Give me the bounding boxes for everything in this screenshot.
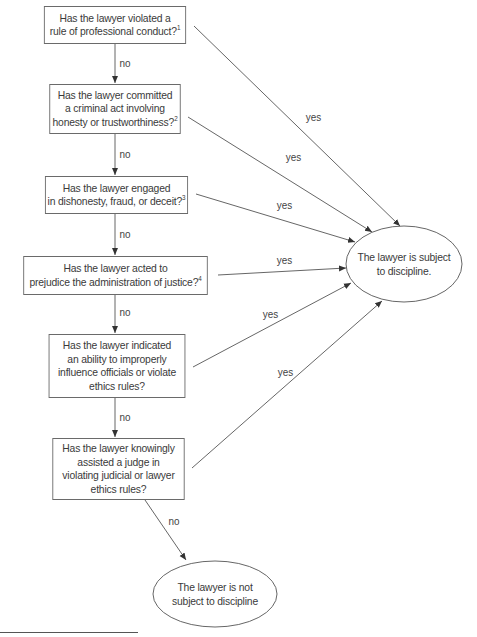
decision-q4: Has the lawyer acted to prejudice the ad…: [23, 256, 208, 295]
outcome-subject-line1: The lawyer is subject: [358, 250, 451, 264]
decision-q6-line4: ethics rules?: [62, 483, 174, 497]
decision-q4-line1: Has the lawyer acted to: [29, 262, 201, 276]
decision-q5-line3: influence officials or violate: [58, 366, 176, 380]
edge-label-no-2: no: [120, 148, 131, 160]
flowchart-canvas: Has the lawyer violated a rule of profes…: [0, 0, 477, 637]
footnote-ref: 1: [177, 24, 180, 31]
decision-q3-line2: in dishonesty, fraud, or deceit?3: [48, 195, 186, 209]
edge-label-yes-6: yes: [278, 366, 293, 378]
decision-q4-line2: prejudice the administration of justice?…: [29, 276, 201, 290]
footnote-ref: 2: [174, 115, 177, 122]
edge-q2-subject: [188, 117, 372, 232]
edge-label-yes-1: yes: [306, 111, 321, 123]
edge-q3-subject: [196, 194, 355, 242]
edge-label-yes-2: yes: [286, 151, 301, 163]
outcome-not-subject: The lawyer is not subject to discipline: [164, 576, 267, 612]
decision-q6-line2: assisted a judge in: [62, 456, 174, 470]
edge-label-no-5: no: [120, 411, 131, 423]
decision-q1: Has the lawyer violated a rule of profes…: [44, 6, 186, 44]
decision-q2-line2: a criminal act involving: [52, 102, 177, 116]
decision-q5-line1: Has the lawyer indicated: [58, 339, 176, 353]
edge-q5-subject: [193, 283, 351, 367]
footnote-ref: 4: [198, 275, 201, 282]
decision-q2-line1: Has the lawyer committed: [52, 89, 177, 103]
decision-q6-line3: violating judicial or lawyer: [62, 469, 174, 483]
edge-label-yes-3: yes: [277, 199, 292, 211]
decision-q1-line1: Has the lawyer violated a: [50, 12, 180, 26]
edge-label-no-1: no: [120, 57, 131, 69]
edge-label-no-6: no: [169, 515, 180, 527]
decision-q2: Has the lawyer committed a criminal act …: [49, 84, 180, 134]
decision-q1-line2: rule of professional conduct?1: [50, 25, 180, 39]
edge-label-yes-5: yes: [263, 308, 278, 320]
outcome-subject: The lawyer is subject to discipline.: [355, 246, 452, 282]
decision-q6: Has the lawyer knowingly assisted a judg…: [52, 438, 184, 500]
edge-q6-subject: [192, 301, 382, 468]
edge-q4-subject: [218, 268, 346, 275]
decision-q5-line4: ethics rules?: [58, 380, 176, 394]
footnote-ref: 3: [182, 194, 185, 201]
edge-label-yes-4: yes: [277, 254, 292, 266]
outcome-not-subject-line1: The lawyer is not: [172, 580, 258, 594]
edge-q6-notsubject: [145, 500, 186, 560]
decision-q2-line3: honesty or trustworthiness?2: [52, 116, 177, 130]
edge-label-no-3: no: [120, 228, 131, 240]
outcome-not-subject-line2: subject to discipline: [172, 594, 258, 608]
decision-q5-line2: an ability to improperly: [58, 353, 176, 367]
decision-q3: Has the lawyer engaged in dishonesty, fr…: [45, 176, 188, 214]
decision-q5: Has the lawyer indicated an ability to i…: [49, 334, 186, 398]
decision-q3-line1: Has the lawyer engaged: [48, 182, 186, 196]
decision-q6-line1: Has the lawyer knowingly: [62, 442, 174, 456]
outcome-subject-line2: to discipline.: [358, 264, 451, 278]
edge-label-no-4: no: [120, 306, 131, 318]
edge-q1-subject: [194, 26, 400, 226]
footnote-divider: [0, 632, 138, 633]
